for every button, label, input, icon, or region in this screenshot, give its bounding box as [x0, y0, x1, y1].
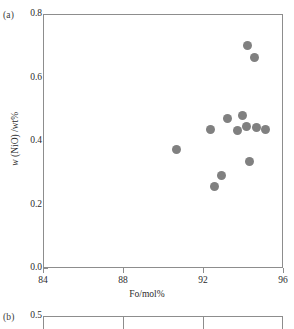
data-point [242, 122, 251, 131]
x-axis-title: Fo/mol% [0, 290, 294, 300]
panel-b-tag: (b) [3, 313, 15, 323]
y-axis-title-symbol: w [10, 159, 20, 165]
panel-a: (a) 0.00.20.40.60.8 84889296 w (NiO) /wt… [0, 0, 294, 300]
data-point [217, 171, 226, 180]
data-point [172, 145, 181, 154]
data-point [245, 157, 254, 166]
data-point [250, 53, 259, 62]
plot-area [44, 15, 282, 267]
y-axis-tick-label: 0.8 [30, 9, 42, 19]
panel-b-plot-frame [43, 316, 283, 329]
panel-b-x-tick [123, 316, 124, 329]
x-axis-tick-label: 92 [198, 276, 208, 286]
data-point [206, 125, 215, 134]
panel-a-tag: (a) [3, 11, 14, 21]
data-point [243, 41, 252, 50]
x-axis-tick-label: 88 [118, 276, 128, 286]
x-axis-tick-label: 84 [38, 276, 48, 286]
y-axis-tick-label: 0.4 [30, 136, 42, 146]
panel-b-y-top-label: 0.5 [30, 311, 42, 321]
x-axis-tick [43, 268, 44, 273]
x-axis-tick [123, 268, 124, 273]
panel-b: (b) 0.5 [0, 300, 294, 329]
panel-b-x-tick [203, 316, 204, 329]
data-point [238, 111, 247, 120]
y-axis-tick-label: 0.0 [30, 263, 42, 273]
data-point [261, 125, 270, 134]
y-axis-title: w (NiO) /wt% [11, 79, 21, 199]
plot-frame [43, 14, 283, 268]
data-point [223, 114, 232, 123]
x-axis-tick [283, 268, 284, 273]
data-point [210, 182, 219, 191]
x-axis-tick-label: 96 [278, 276, 288, 286]
y-axis-title-rest: (NiO) /wt% [10, 112, 20, 160]
x-axis-tick [203, 268, 204, 273]
y-axis-tick-label: 0.6 [30, 73, 42, 83]
y-axis-tick-label: 0.2 [30, 200, 42, 210]
data-point [233, 126, 242, 135]
data-point [252, 123, 261, 132]
